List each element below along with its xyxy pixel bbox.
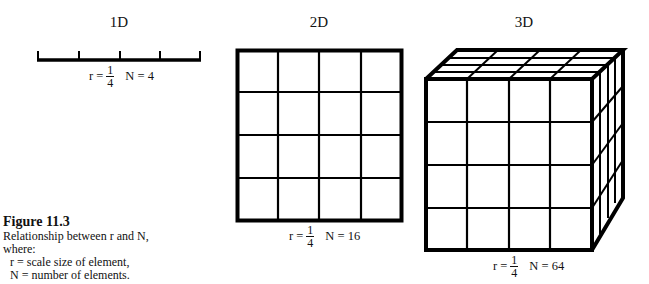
caption-line: N = number of elements. bbox=[3, 269, 149, 282]
fraction: 1 4 bbox=[510, 254, 518, 279]
n-label: N = 4 bbox=[125, 69, 154, 84]
figure-caption: Figure 11.3 Relationship between r and N… bbox=[3, 214, 149, 282]
r-label: r = bbox=[493, 259, 507, 274]
caption-heading: Figure 11.3 bbox=[3, 214, 149, 230]
fraction: 1 4 bbox=[106, 64, 114, 89]
n-label: N = 64 bbox=[529, 259, 564, 274]
fraction: 1 4 bbox=[306, 224, 314, 249]
n-label: N = 16 bbox=[325, 229, 360, 244]
label-3d: r = 1 4 N = 64 bbox=[493, 254, 564, 279]
r-label: r = bbox=[89, 69, 103, 84]
r-label: r = bbox=[289, 229, 303, 244]
label-2d: r = 1 4 N = 16 bbox=[289, 224, 360, 249]
cube-3d bbox=[426, 50, 623, 250]
line-1d bbox=[37, 51, 201, 61]
label-1d: r = 1 4 N = 4 bbox=[89, 64, 154, 89]
grid-2d bbox=[237, 50, 402, 221]
